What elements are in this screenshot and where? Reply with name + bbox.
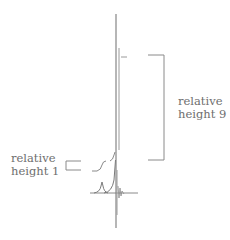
- peak-ringing: [118, 186, 124, 198]
- small-peak: [94, 182, 108, 193]
- bracket-height-9: [148, 55, 164, 160]
- label-line: height 9: [178, 108, 226, 121]
- integration-curve-small: [92, 161, 106, 171]
- integration-curve-large: [110, 152, 115, 161]
- label-line: height 1: [11, 165, 59, 178]
- bracket-height-1: [66, 161, 81, 170]
- label-relative-height-9: relative height 9: [178, 95, 226, 121]
- large-peak-shoulder: [104, 160, 116, 193]
- label-relative-height-1: relative height 1: [11, 152, 59, 178]
